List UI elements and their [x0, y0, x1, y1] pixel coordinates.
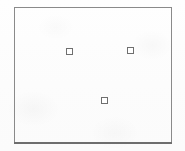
point-marker-2 — [127, 47, 134, 54]
point-marker-1 — [66, 48, 73, 55]
diagram-canvas — [0, 0, 185, 151]
plot-frame-rectangle — [14, 7, 172, 144]
frame-edge-left — [14, 7, 15, 144]
frame-edge-right — [171, 7, 172, 144]
point-marker-3 — [101, 97, 108, 104]
frame-edge-bottom — [14, 142, 172, 144]
frame-edge-top — [14, 7, 172, 8]
